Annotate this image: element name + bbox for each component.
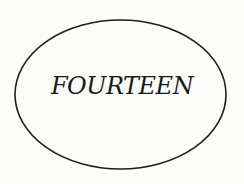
ellipse-label: FOURTEEN <box>0 71 244 101</box>
